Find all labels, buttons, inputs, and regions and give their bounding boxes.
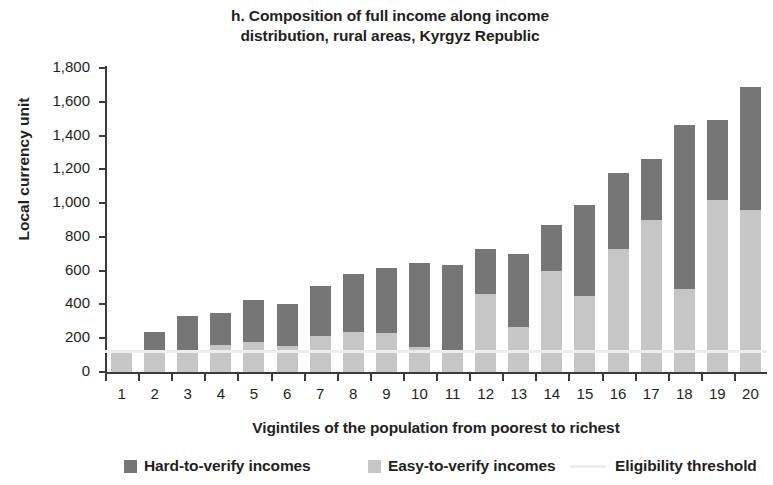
y-axis-tick-label: 600 — [12, 264, 90, 276]
x-axis-tick-label: 6 — [271, 385, 304, 403]
bar-segment-hard-to-verify — [442, 265, 463, 351]
bar-vigintile-4 — [210, 313, 231, 372]
x-axis-tick-label: 2 — [138, 385, 171, 403]
legend-label: Easy-to-verify incomes — [388, 457, 556, 475]
bar-vigintile-17 — [641, 159, 662, 372]
legend-item-2[interactable]: Easy-to-verify incomes — [368, 455, 556, 477]
bar-segment-easy-to-verify — [608, 249, 629, 372]
x-axis-tick — [403, 374, 405, 381]
eligibility-threshold-line — [105, 350, 767, 353]
bar-vigintile-18 — [674, 125, 695, 372]
bar-segment-hard-to-verify — [177, 316, 198, 351]
y-axis-tick-label: 400 — [12, 297, 90, 309]
bar-segment-easy-to-verify — [210, 345, 231, 372]
bar-segment-hard-to-verify — [277, 304, 298, 345]
x-axis-tick — [668, 374, 670, 381]
bar-segment-hard-to-verify — [144, 332, 165, 351]
x-axis-tick-label: 5 — [237, 385, 270, 403]
bar-segment-easy-to-verify — [707, 200, 728, 372]
x-axis-tick-label: 1 — [105, 385, 138, 403]
x-axis-tick-label: 13 — [502, 385, 535, 403]
x-axis-tick — [304, 374, 306, 381]
plot-area — [105, 68, 767, 372]
legend-item-1[interactable]: Hard-to-verify incomes — [124, 455, 311, 477]
bar-vigintile-8 — [343, 274, 364, 372]
bar-segment-easy-to-verify — [541, 271, 562, 372]
x-axis-tick — [535, 374, 537, 381]
bar-vigintile-5 — [243, 300, 264, 372]
bar-segment-hard-to-verify — [674, 125, 695, 290]
bar-segment-easy-to-verify — [310, 336, 331, 372]
x-axis-tick — [204, 374, 206, 381]
bar-segment-hard-to-verify — [574, 205, 595, 296]
bar-segment-easy-to-verify — [111, 352, 132, 372]
bar-vigintile-11 — [442, 265, 463, 372]
legend-label: Eligibility threshold — [615, 457, 757, 475]
bar-vigintile-19 — [707, 120, 728, 372]
x-axis-tick-label: 11 — [436, 385, 469, 403]
bar-segment-hard-to-verify — [508, 254, 529, 327]
bar-segment-easy-to-verify — [177, 351, 198, 372]
x-axis-tick-label: 12 — [469, 385, 502, 403]
bar-vigintile-16 — [608, 173, 629, 372]
y-axis-tick-label: 1,400 — [12, 129, 90, 141]
bar-segment-hard-to-verify — [475, 249, 496, 295]
x-axis-tick — [237, 374, 239, 381]
x-axis-tick-label: 20 — [734, 385, 767, 403]
x-axis-tick — [337, 374, 339, 381]
chart-figure: h. Composition of full income along inco… — [0, 0, 773, 485]
bar-segment-hard-to-verify — [243, 300, 264, 342]
x-axis-tick — [469, 374, 471, 381]
x-axis-tick — [271, 374, 273, 381]
x-axis-tick-label: 10 — [403, 385, 436, 403]
x-axis-tick — [602, 374, 604, 381]
x-axis-tick-label: 7 — [304, 385, 337, 403]
x-axis-tick — [734, 374, 736, 381]
x-axis-tick-label: 14 — [535, 385, 568, 403]
x-axis-tick-label: 4 — [204, 385, 237, 403]
bar-vigintile-15 — [574, 205, 595, 372]
x-axis-tick — [370, 374, 372, 381]
bar-vigintile-12 — [475, 249, 496, 372]
legend-label: Hard-to-verify incomes — [144, 457, 311, 475]
bar-vigintile-9 — [376, 268, 397, 372]
chart-title-line-1: h. Composition of full income along inco… — [150, 6, 630, 26]
x-axis-tick — [105, 374, 107, 381]
x-axis-tick-label: 3 — [171, 385, 204, 403]
legend-item-3[interactable]: Eligibility threshold — [570, 455, 757, 477]
bar-segment-hard-to-verify — [740, 87, 761, 209]
bar-segment-easy-to-verify — [243, 342, 264, 372]
bar-vigintile-3 — [177, 316, 198, 372]
x-axis-tick — [138, 374, 140, 381]
bar-segment-hard-to-verify — [343, 274, 364, 332]
x-axis-tick-label: 16 — [602, 385, 635, 403]
bar-segment-easy-to-verify — [144, 352, 165, 372]
bar-vigintile-13 — [508, 254, 529, 372]
x-axis-tick-label: 15 — [568, 385, 601, 403]
chart-legend: Hard-to-verify incomesEasy-to-verify inc… — [0, 455, 773, 479]
bar-segment-hard-to-verify — [210, 313, 231, 345]
bar-vigintile-7 — [310, 286, 331, 372]
bar-vigintile-10 — [409, 263, 430, 372]
y-axis-tick-label: 200 — [12, 331, 90, 343]
x-axis-tick-label: 18 — [668, 385, 701, 403]
x-axis-tick — [502, 374, 504, 381]
x-axis-title: Vigintiles of the population from poores… — [105, 419, 767, 437]
bar-segment-hard-to-verify — [310, 286, 331, 336]
legend-swatch-icon — [124, 460, 137, 473]
bar-vigintile-6 — [277, 304, 298, 372]
chart-title-line-2: distribution, rural areas, Kyrgyz Republ… — [150, 26, 630, 46]
x-axis-tick-label: 19 — [701, 385, 734, 403]
bar-segment-hard-to-verify — [409, 263, 430, 347]
x-axis-tick — [635, 374, 637, 381]
y-axis-tick-label: 1,200 — [12, 162, 90, 174]
y-axis-tick-label: 1,800 — [12, 61, 90, 73]
x-axis-tick-label: 9 — [370, 385, 403, 403]
bar-segment-hard-to-verify — [541, 225, 562, 271]
x-axis-tick-label: 8 — [337, 385, 370, 403]
y-axis-tick-label: 1,600 — [12, 95, 90, 107]
bar-segment-easy-to-verify — [674, 289, 695, 372]
bar-segment-hard-to-verify — [608, 173, 629, 249]
y-axis-tick-label: 1,000 — [12, 196, 90, 208]
x-axis-tick — [568, 374, 570, 381]
